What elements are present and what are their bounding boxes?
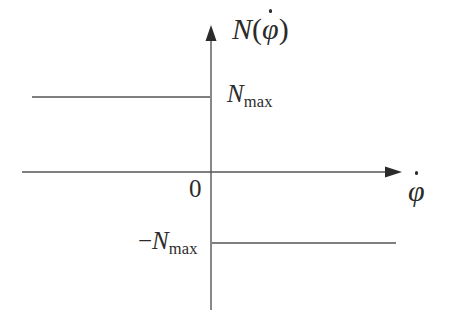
y-axis-label: N(φ) — [232, 14, 289, 44]
figure-canvas: N(φ) φ Nmax −Nmax 0 — [0, 0, 450, 322]
negative-tick-label: −Nmax — [138, 228, 198, 257]
y-axis-open-paren: ( — [252, 12, 262, 45]
positive-tick-symbol: N — [227, 80, 244, 107]
y-axis — [206, 25, 217, 310]
negative-tick-symbol: N — [152, 227, 169, 254]
negative-tick-subscript: max — [169, 239, 198, 258]
origin-label: 0 — [189, 176, 202, 201]
y-axis-function-name: N — [232, 12, 252, 45]
positive-tick-subscript: max — [244, 92, 273, 111]
positive-tick-label: Nmax — [227, 81, 273, 110]
x-axis-label: φ — [408, 176, 425, 206]
x-axis-phi-glyph: φ — [408, 174, 425, 207]
plot-svg — [0, 0, 450, 322]
x-axis-arrowhead-icon — [385, 167, 402, 178]
x-axis — [22, 167, 402, 178]
y-axis-phi-glyph: φ — [262, 12, 279, 45]
y-axis-arrowhead-icon — [206, 25, 217, 41]
y-axis-close-paren: ) — [279, 12, 289, 45]
negative-tick-minus-sign: − — [138, 227, 152, 254]
y-axis-phi-dot-symbol: φ — [262, 14, 279, 44]
x-axis-phi-dot-symbol: φ — [408, 176, 425, 206]
